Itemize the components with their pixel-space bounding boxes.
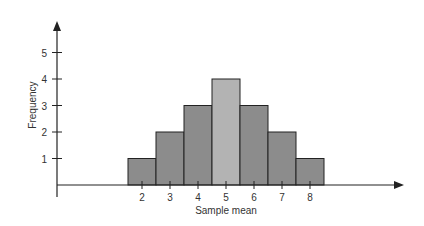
y-tick-label: 5 — [41, 48, 47, 59]
x-tick-label: 4 — [195, 192, 201, 203]
x-tick-label: 6 — [251, 192, 257, 203]
x-tick-label: 7 — [279, 192, 285, 203]
histogram-chart: 12345 2345678 Sample mean Frequency — [0, 0, 424, 226]
x-tick-label: 3 — [167, 192, 173, 203]
x-axis-arrow-icon — [394, 181, 404, 189]
bars — [128, 79, 324, 185]
y-ticks: 12345 — [41, 48, 62, 165]
bar-4 — [184, 106, 212, 186]
x-tick-label: 2 — [139, 192, 145, 203]
x-axis-title: Sample mean — [195, 205, 257, 216]
y-axis-arrow-icon — [53, 21, 61, 31]
bar-7 — [268, 132, 296, 185]
y-tick-label: 3 — [41, 101, 47, 112]
y-tick-label: 1 — [41, 154, 47, 165]
bar-6 — [240, 106, 268, 186]
y-axis-title: Frequency — [27, 81, 38, 128]
y-tick-label: 2 — [41, 127, 47, 138]
bar-3 — [156, 132, 184, 185]
x-tick-label: 8 — [307, 192, 313, 203]
x-tick-label: 5 — [223, 192, 229, 203]
bar-5 — [212, 79, 240, 185]
y-tick-label: 4 — [41, 74, 47, 85]
